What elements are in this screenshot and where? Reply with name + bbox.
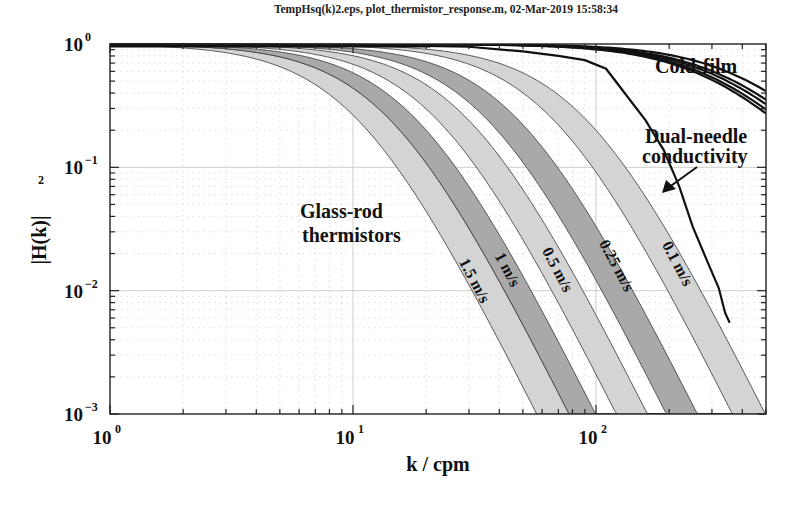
x-tick-label: 10 xyxy=(579,427,598,448)
y-axis-label: |H(k)| xyxy=(28,216,51,265)
y-axis-label-exponent: 2 xyxy=(38,173,44,187)
x-tick-exponent: 0 xyxy=(115,422,121,436)
y-tick-label: 10 xyxy=(64,34,83,55)
figure-title: TempHsq(k)2.eps, plot_thermistor_respons… xyxy=(274,3,618,16)
x-tick-label: 10 xyxy=(336,427,355,448)
y-tick-label: 10 xyxy=(64,157,83,178)
y-tick-exponent: −2 xyxy=(85,277,98,291)
y-tick-exponent: −1 xyxy=(85,153,98,167)
thermistor-response-figure: TempHsq(k)2.eps, plot_thermistor_respons… xyxy=(0,0,786,509)
glass-rod-label: Glass-rod xyxy=(300,200,383,222)
conductivity-label: conductivity xyxy=(642,145,748,168)
x-tick-exponent: 1 xyxy=(358,422,364,436)
x-tick-label: 10 xyxy=(93,427,112,448)
glass-rod-bands xyxy=(110,44,766,414)
x-axis-label: k / cpm xyxy=(406,453,470,476)
y-axis-label-group: |H(k)| 2 xyxy=(28,173,51,264)
y-tick-exponent: 0 xyxy=(85,30,91,44)
y-tick-exponent: −3 xyxy=(85,400,98,414)
x-tick-exponent: 2 xyxy=(601,422,607,436)
y-tick-label: 10 xyxy=(64,404,83,425)
dual-needle-label: Dual-needle xyxy=(645,125,747,147)
cold-film-label: Cold-film xyxy=(655,55,738,77)
thermistors-label: thermistors xyxy=(302,224,401,246)
y-tick-label: 10 xyxy=(64,281,83,302)
